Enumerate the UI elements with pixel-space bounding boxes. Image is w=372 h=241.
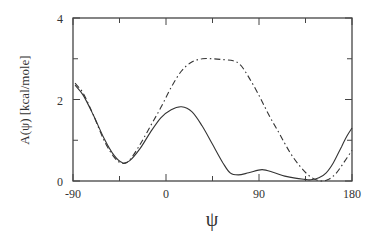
y-tick-label: 0 bbox=[57, 175, 63, 189]
series-line-solid bbox=[75, 85, 352, 180]
y-axis-title: A(ψ) [kcal/mole] bbox=[17, 55, 32, 144]
x-tick-label: 0 bbox=[163, 187, 169, 201]
x-tick-label: 90 bbox=[253, 187, 265, 201]
chart: -90090180024 ψ A(ψ) [kcal/mole] bbox=[0, 0, 372, 241]
y-tick-label: 2 bbox=[57, 94, 63, 108]
series-line-dash-dot bbox=[75, 58, 352, 181]
x-tick-label: -90 bbox=[65, 187, 81, 201]
data-series bbox=[75, 58, 352, 181]
x-tick-label: 180 bbox=[343, 187, 361, 201]
tick-labels: -90090180024 bbox=[57, 12, 361, 201]
x-axis-title: ψ bbox=[206, 208, 219, 231]
y-tick-label: 4 bbox=[57, 12, 63, 26]
